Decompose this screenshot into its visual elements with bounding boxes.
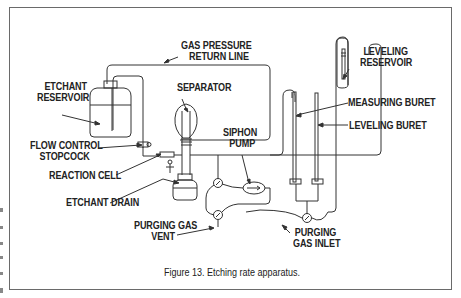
- label-flow-control-stopcock: FLOW CONTROLSTOPCOCK: [30, 140, 103, 162]
- label-etchant-reservoir: ETCHANTRESERVOIR: [37, 81, 89, 103]
- leveling-buret-icon: [312, 93, 323, 184]
- figure-caption: Figure 13. Etching rate apparatus.: [164, 267, 300, 278]
- label-reaction-cell: REACTION CELL: [49, 170, 121, 181]
- label-siphon-pump: SIPHONPUMP: [223, 127, 257, 149]
- siphon-pump-icon: [243, 182, 265, 194]
- measuring-buret-icon: [290, 92, 301, 184]
- vent-stopcock-icon: [214, 211, 223, 228]
- label-purging-gas-inlet: PURGINGGAS INLET: [293, 227, 340, 249]
- etchant-reservoir-icon: [90, 81, 131, 137]
- label-purging-gas-vent: PURGING GASVENT: [134, 220, 197, 242]
- inlet-stopcock-icon: [303, 214, 312, 223]
- label-leveling-buret: LEVELING BURET: [349, 120, 427, 131]
- label-measuring-buret: MEASURING BURET: [348, 97, 436, 108]
- upper-stopcock-icon: [214, 179, 223, 188]
- label-separator: SEPARATOR: [177, 82, 231, 93]
- label-gas-pressure-return-line: GAS PRESSURERETURN LINE: [181, 40, 252, 62]
- drain-stopcock-icon: [166, 160, 174, 173]
- label-leveling-reservoir: LEVELINGRESERVOIR: [360, 46, 412, 68]
- label-etchant-drain: ETCHANT DRAIN: [66, 197, 139, 208]
- etchant-drain-icon: [173, 174, 197, 200]
- leveling-reservoir-icon: [337, 38, 348, 88]
- reaction-cell-icon: [160, 152, 182, 157]
